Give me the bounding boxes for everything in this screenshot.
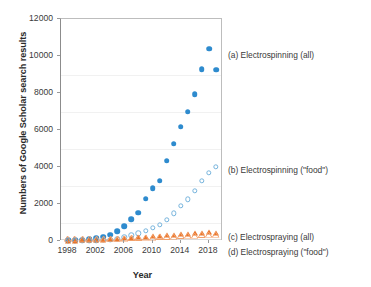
- data-point-electrospraying_food: [121, 238, 127, 243]
- legend-label-4: (d) Electrospraying ("food"): [228, 247, 328, 257]
- data-point-electrospraying_food: [86, 238, 92, 243]
- data-point-electrospraying_food: [192, 235, 198, 240]
- data-point-electrospinning_all: [185, 109, 191, 115]
- scatter-chart: Numbers of Google Scholar search results…: [0, 0, 371, 287]
- x-tick-mark: [152, 240, 153, 243]
- legend-label-2: (b) Electrospinning ("food"): [228, 165, 328, 175]
- data-point-electrospraying_food: [213, 234, 219, 239]
- data-point-electrospraying_food: [107, 238, 113, 243]
- data-point-electrospraying_food: [128, 238, 134, 243]
- data-point-electrospraying_food: [171, 236, 177, 241]
- y-tick-label: 12000: [29, 13, 53, 23]
- data-point-electrospraying_food: [164, 237, 170, 242]
- y-tick-label: 6000: [34, 124, 53, 134]
- data-point-electrospinning_all: [143, 196, 149, 202]
- data-point-electrospinning_food: [150, 225, 155, 230]
- gridline: [61, 112, 221, 113]
- x-tick-mark: [208, 240, 209, 243]
- data-point-electrospraying_food: [185, 236, 191, 241]
- legend-label-1: (a) Electrospinning (all): [228, 50, 314, 60]
- data-point-electrospraying_food: [100, 238, 106, 243]
- gridline: [61, 75, 221, 76]
- data-point-electrospinning_all: [192, 91, 198, 97]
- y-tick-label: 2000: [34, 198, 53, 208]
- data-point-electrospinning_all: [157, 178, 163, 184]
- gridline: [61, 149, 221, 150]
- x-tick-mark: [95, 240, 96, 243]
- y-tick-label: 0: [48, 235, 53, 245]
- data-point-electrospinning_all: [206, 46, 212, 52]
- gridline: [61, 186, 221, 187]
- x-tick-label: 2002: [86, 245, 105, 255]
- data-point-electrospinning_all: [136, 210, 142, 216]
- y-tick-label: 10000: [29, 50, 53, 60]
- data-point-electrospinning_all: [171, 141, 177, 147]
- data-point-electrospraying_food: [150, 237, 156, 242]
- data-point-electrospinning_food: [199, 178, 204, 183]
- data-point-electrospinning_all: [129, 216, 135, 222]
- y-tick-label: 8000: [34, 87, 53, 97]
- data-point-electrospinning_food: [206, 170, 211, 175]
- data-point-electrospraying_food: [135, 238, 141, 243]
- gridline: [61, 223, 221, 224]
- x-axis-title: Year: [60, 270, 225, 280]
- data-point-electrospraying_food: [72, 238, 78, 243]
- x-tick-label: 2010: [142, 245, 161, 255]
- data-point-electrospinning_all: [150, 185, 156, 191]
- data-point-electrospinning_food: [178, 203, 183, 208]
- data-point-electrospinning_all: [115, 229, 121, 235]
- data-point-electrospinning_food: [143, 228, 148, 233]
- y-tick-label: 4000: [34, 161, 53, 171]
- data-point-electrospinning_all: [164, 158, 170, 164]
- x-tick-mark: [180, 240, 181, 243]
- x-tick-label: 2014: [170, 245, 189, 255]
- x-tick-label: 2006: [114, 245, 133, 255]
- data-point-electrospraying_food: [114, 238, 120, 243]
- data-point-electrospinning_all: [178, 124, 184, 130]
- data-point-electrospraying_food: [206, 234, 212, 239]
- legend-label-3: (c) Electrospraying (all): [228, 232, 314, 242]
- data-point-electrospraying_food: [199, 235, 205, 240]
- data-point-electrospinning_food: [185, 197, 190, 202]
- data-point-electrospinning_food: [157, 222, 162, 227]
- x-tick-mark: [123, 240, 124, 243]
- data-point-electrospinning_all: [122, 223, 128, 229]
- y-axis-ticks: 020004000600080001000012000: [0, 0, 58, 287]
- data-point-electrospinning_all: [213, 67, 219, 73]
- x-tick-mark: [67, 240, 68, 243]
- plot-area: [60, 18, 222, 240]
- data-point-electrospinning_all: [199, 66, 205, 72]
- data-point-electrospraying_food: [178, 236, 184, 241]
- data-point-electrospraying_food: [65, 238, 71, 243]
- data-point-electrospraying_food: [143, 237, 149, 242]
- data-point-electrospraying_food: [157, 237, 163, 242]
- data-point-electrospinning_food: [171, 211, 176, 216]
- data-point-electrospraying_food: [93, 238, 99, 243]
- data-point-electrospinning_food: [213, 164, 218, 169]
- x-tick-label: 2018: [198, 245, 217, 255]
- data-point-electrospinning_food: [192, 188, 197, 193]
- y-tick-mark: [57, 240, 60, 241]
- x-tick-label: 1998: [57, 245, 76, 255]
- data-point-electrospraying_food: [79, 238, 85, 243]
